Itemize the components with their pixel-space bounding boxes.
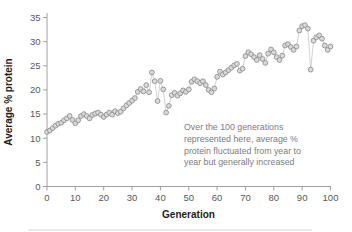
data-point xyxy=(240,66,245,71)
annotation-line: protein fluctuated from year to xyxy=(184,146,301,156)
figure-protein-selection: 051015202530350102030405060708090100 Ove… xyxy=(0,0,352,232)
x-tick-label: 0 xyxy=(44,192,49,203)
data-point xyxy=(186,87,191,92)
data-point xyxy=(305,26,310,31)
annotation: Over the 100 generationsrepresented here… xyxy=(184,122,301,167)
cropped-caption-artifact xyxy=(28,229,312,231)
data-point xyxy=(152,79,157,84)
data-point xyxy=(254,58,259,63)
data-point xyxy=(144,83,149,88)
y-axis-title: Average % protein xyxy=(3,58,14,145)
data-point xyxy=(215,75,220,80)
x-tick-label: 50 xyxy=(183,192,194,203)
data-point xyxy=(155,99,160,104)
data-point xyxy=(161,87,166,92)
y-tick-label: 0 xyxy=(35,181,40,192)
protein-selection-chart: 051015202530350102030405060708090100 Ove… xyxy=(0,0,352,232)
y-tick-label: 35 xyxy=(30,12,41,23)
data-point xyxy=(150,70,155,75)
data-point xyxy=(141,89,146,94)
x-tick-label: 80 xyxy=(269,192,280,203)
data-point xyxy=(294,44,299,49)
x-tick-label: 70 xyxy=(240,192,251,203)
x-tick-label: 20 xyxy=(98,192,109,203)
annotation-line: Over the 100 generations xyxy=(184,122,284,132)
data-point xyxy=(328,44,333,49)
x-tick-label: 10 xyxy=(70,192,81,203)
data-point xyxy=(158,78,163,83)
annotation-line: year but generally increased xyxy=(184,157,295,167)
y-tick-label: 10 xyxy=(30,133,41,144)
data-point xyxy=(308,67,313,72)
data-point xyxy=(147,90,152,95)
x-tick-label: 60 xyxy=(212,192,223,203)
data-point xyxy=(235,62,240,67)
tick-labels: 051015202530350102030405060708090100 xyxy=(30,12,339,203)
annotation-line: represented here, average % xyxy=(184,134,298,144)
data-point xyxy=(167,104,172,109)
y-tick-label: 25 xyxy=(30,60,41,71)
y-tick-label: 15 xyxy=(30,108,41,119)
x-tick-label: 100 xyxy=(323,192,339,203)
data-point xyxy=(271,50,276,55)
data-point xyxy=(133,96,138,101)
y-tick-label: 5 xyxy=(35,157,40,168)
y-tick-label: 20 xyxy=(30,84,41,95)
data-point xyxy=(263,61,268,66)
x-tick-label: 40 xyxy=(155,192,166,203)
x-tick-label: 30 xyxy=(127,192,138,203)
data-point xyxy=(280,53,285,58)
data-series xyxy=(45,23,333,135)
data-point xyxy=(320,36,325,41)
data-point xyxy=(266,51,271,56)
data-point xyxy=(322,43,327,48)
data-point xyxy=(212,86,217,91)
data-point xyxy=(164,110,169,115)
x-axis-title: Generation xyxy=(162,209,215,220)
y-tick-label: 30 xyxy=(30,36,41,47)
x-tick-label: 90 xyxy=(297,192,308,203)
data-point xyxy=(277,58,282,63)
data-point xyxy=(203,83,208,88)
